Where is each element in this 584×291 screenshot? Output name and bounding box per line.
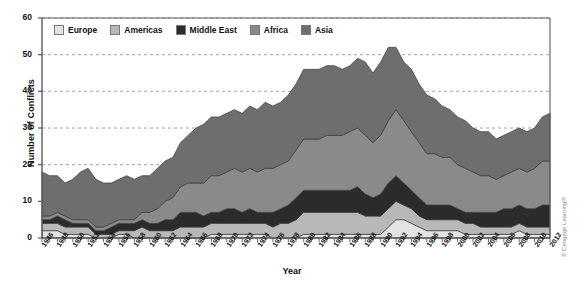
copyright-notice: © Cengage Learning® xyxy=(561,165,567,257)
chart-legend: EuropeAmericasMiddle EastAfricaAsia xyxy=(54,25,333,35)
legend-item-africa[interactable]: Africa xyxy=(250,25,288,35)
y-tick-label-60: 60 xyxy=(6,12,32,22)
legend-swatch-icon xyxy=(176,25,186,35)
legend-label: Middle East xyxy=(190,25,237,35)
y-tick-label-40: 40 xyxy=(6,85,32,95)
legend-swatch-icon xyxy=(110,25,120,35)
legend-swatch-icon xyxy=(301,25,311,35)
y-tick-label-10: 10 xyxy=(6,195,32,205)
legend-swatch-icon xyxy=(54,25,64,35)
y-tick-label-50: 50 xyxy=(6,49,32,59)
legend-item-europe[interactable]: Europe xyxy=(54,25,97,35)
legend-label: Europe xyxy=(68,25,97,35)
y-tick-label-20: 20 xyxy=(6,159,32,169)
y-tick-label-0: 0 xyxy=(6,232,32,242)
legend-item-middle-east[interactable]: Middle East xyxy=(176,25,237,35)
y-tick-label-30: 30 xyxy=(6,122,32,132)
legend-label: Asia xyxy=(315,25,333,35)
legend-label: Africa xyxy=(264,25,288,35)
legend-label: Americas xyxy=(124,25,162,35)
conflicts-stacked-area-chart: EuropeAmericasMiddle EastAfricaAsia Numb… xyxy=(0,0,584,291)
x-axis-title: Year xyxy=(0,266,584,276)
legend-swatch-icon xyxy=(250,25,260,35)
legend-item-americas[interactable]: Americas xyxy=(110,25,162,35)
legend-item-asia[interactable]: Asia xyxy=(301,25,333,35)
